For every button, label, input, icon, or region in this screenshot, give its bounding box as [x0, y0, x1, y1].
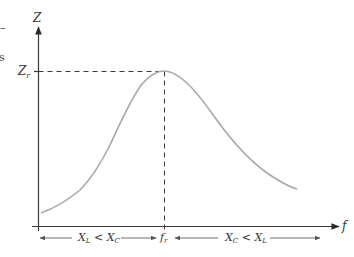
right-region-label: XC < XL	[224, 231, 267, 245]
y-axis-label: Z	[32, 11, 42, 25]
peak-impedance-label: Zr	[17, 64, 31, 80]
left-region-label: XL < XC	[77, 231, 121, 245]
edge-fragment-dash: –	[0, 21, 6, 34]
edge-fragment-s: s	[0, 51, 5, 64]
impedance-curve	[41, 71, 297, 213]
x-axis-label: f	[341, 219, 349, 233]
xl2-sub: L	[261, 237, 267, 245]
resonant-frequency-label: fr	[159, 231, 168, 245]
resonance-diagram: – s Z f Zr XL < XC fr XC < XL	[0, 0, 354, 257]
xc-sub: C	[115, 237, 121, 245]
zr-sub: r	[26, 71, 31, 80]
fr-sub: r	[164, 237, 168, 245]
lt-op: <	[91, 231, 107, 244]
lt-op-2: <	[238, 231, 254, 244]
